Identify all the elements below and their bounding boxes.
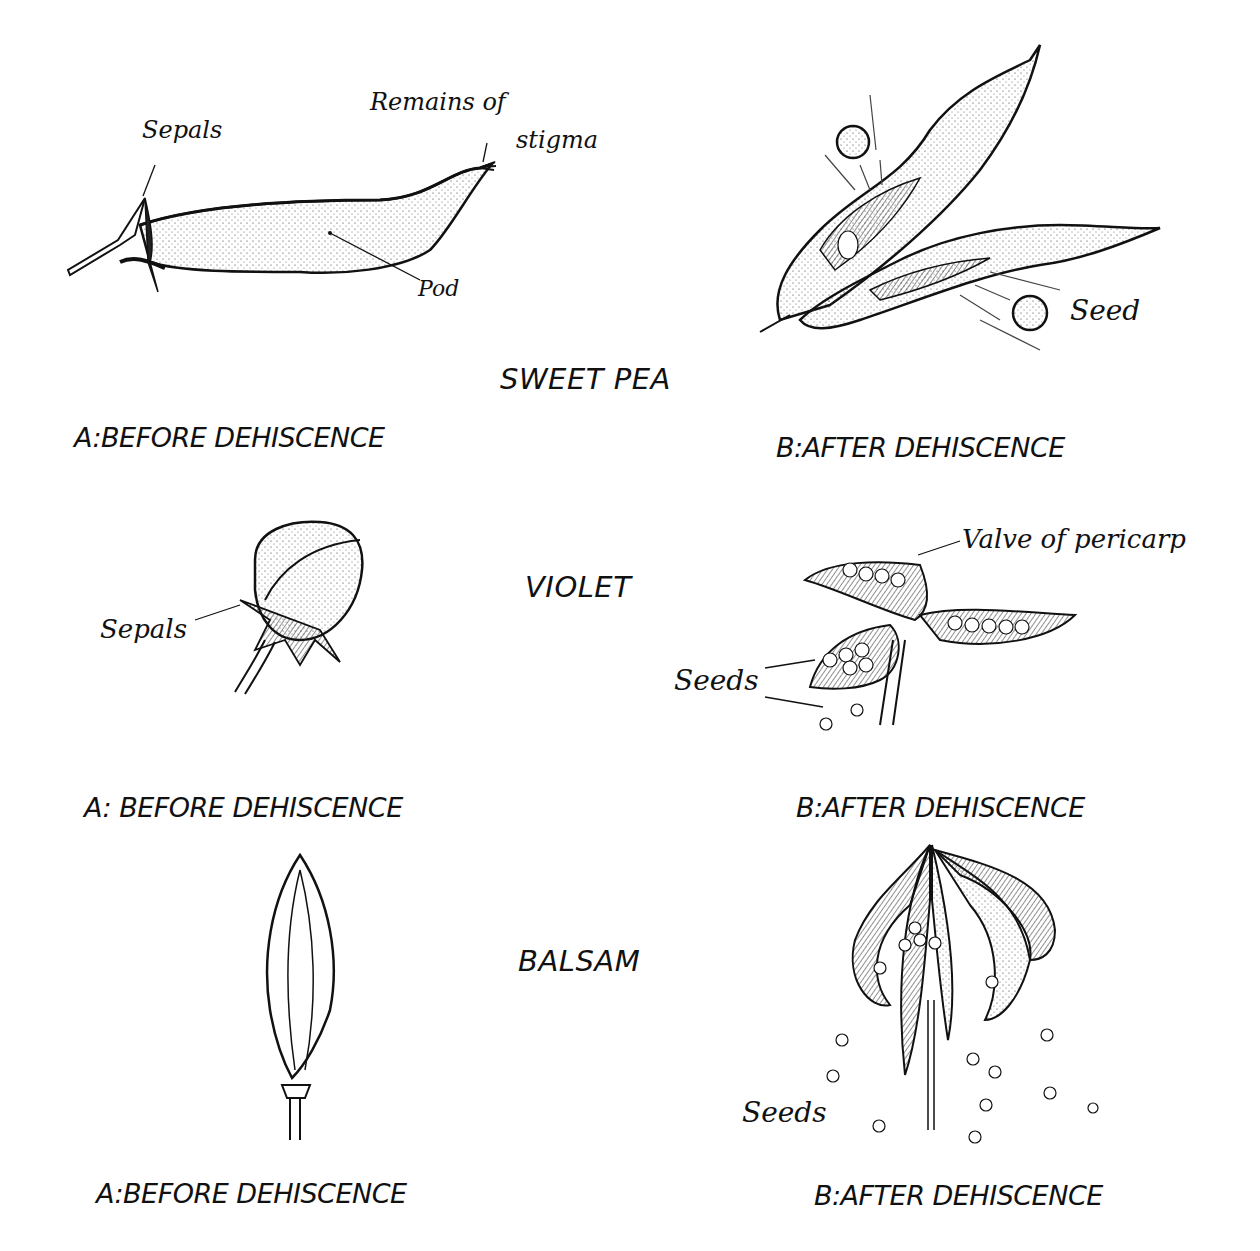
balsam-before-caption: A:BEFORE DEHISCENCE xyxy=(96,1178,407,1209)
violet-before-caption: A: BEFORE DEHISCENCE xyxy=(84,792,403,823)
violet-capsule-open-drawing xyxy=(765,541,1075,730)
pod-label: Pod xyxy=(418,276,459,301)
violet-after-caption: B:AFTER DEHISCENCE xyxy=(796,792,1085,823)
seed-label: Seed xyxy=(1070,294,1140,327)
sepals-label-violet: Sepals xyxy=(100,614,187,644)
valve-of-pericarp-label: Valve of pericarp xyxy=(962,524,1186,554)
sweet-pea-title: SWEET PEA xyxy=(500,362,671,396)
balsam-title: BALSAM xyxy=(518,944,640,978)
stigma-label: stigma xyxy=(516,126,598,154)
sweet-pea-before-caption: A:BEFORE DEHISCENCE xyxy=(74,422,385,453)
violet-capsule-closed-drawing xyxy=(195,522,362,694)
remains-of-label: Remains of xyxy=(370,88,506,116)
sepals-label-sweet-pea: Sepals xyxy=(142,116,222,144)
dehiscence-illustrations xyxy=(0,0,1260,1251)
seeds-label-violet: Seeds xyxy=(674,664,759,697)
sweet-pea-after-caption: B:AFTER DEHISCENCE xyxy=(776,432,1065,463)
balsam-after-caption: B:AFTER DEHISCENCE xyxy=(814,1180,1103,1211)
balsam-capsule-closed-drawing xyxy=(267,855,334,1140)
seeds-label-balsam: Seeds xyxy=(742,1096,827,1129)
violet-title: VIOLET xyxy=(525,570,631,604)
balsam-capsule-open-drawing xyxy=(827,845,1098,1143)
sweet-pea-pod-closed-drawing xyxy=(68,143,496,292)
